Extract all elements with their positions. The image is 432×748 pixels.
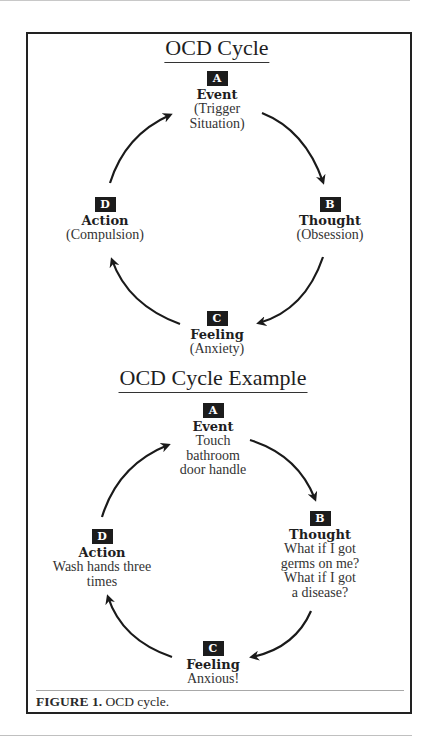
node-desc-line: germs on me?: [245, 557, 395, 572]
node-desc-line: What if I got: [245, 542, 395, 557]
node-c-feeling: C Feeling (Anxiety): [142, 308, 292, 357]
badge-a: A: [203, 403, 224, 418]
node-a-event-example: A Event Touch bathroom door handle: [138, 400, 288, 478]
badge-b: B: [310, 511, 331, 526]
node-desc-line: (Compulsion): [30, 228, 180, 243]
node-label: Action: [27, 545, 177, 560]
badge-d: D: [95, 197, 116, 212]
node-label: Feeling: [138, 657, 288, 672]
caption-divider: [36, 690, 404, 691]
node-label: Thought: [255, 213, 405, 228]
node-label: Action: [30, 213, 180, 228]
node-desc-line: What if I got: [245, 571, 395, 586]
node-desc-line: a disease?: [245, 586, 395, 601]
node-b-thought-example: B Thought What if I got germs on me? Wha…: [245, 508, 395, 600]
node-label: Feeling: [142, 327, 292, 342]
badge-c: C: [207, 311, 228, 326]
node-desc-line: Anxious!: [138, 672, 288, 687]
badge-a: A: [207, 71, 228, 86]
badge-b: B: [320, 197, 341, 212]
badge-c: C: [203, 641, 224, 656]
node-d-action: D Action (Compulsion): [30, 194, 180, 243]
node-label: Thought: [245, 527, 395, 542]
node-desc-line: (Obsession): [255, 228, 405, 243]
node-c-feeling-example: C Feeling Anxious!: [138, 638, 288, 687]
node-label: Event: [138, 419, 288, 434]
node-desc-line: door handle: [138, 463, 288, 478]
page-bottom-rule: [0, 735, 412, 736]
badge-d: D: [92, 529, 113, 544]
diagram-title-ocd-cycle: OCD Cycle: [164, 36, 269, 63]
node-desc-line: times: [27, 575, 177, 590]
figure-caption: FIGURE 1. OCD cycle.: [36, 694, 169, 710]
node-desc-line: Touch: [138, 434, 288, 449]
node-desc-line: Wash hands three: [27, 560, 177, 575]
node-b-thought: B Thought (Obsession): [255, 194, 405, 243]
node-d-action-example: D Action Wash hands three times: [27, 526, 177, 589]
node-desc-line: (Anxiety): [142, 342, 292, 357]
node-label: Event: [142, 87, 292, 102]
node-desc-line: bathroom: [138, 449, 288, 464]
node-desc-line: (Trigger: [142, 102, 292, 117]
node-a-event: A Event (Trigger Situation): [142, 68, 292, 131]
node-desc-line: Situation): [142, 117, 292, 132]
caption-label: FIGURE 1.: [36, 694, 102, 709]
diagram-title-ocd-cycle-example: OCD Cycle Example: [119, 366, 308, 393]
page-top-rule: [0, 0, 410, 1]
caption-text: OCD cycle.: [102, 694, 169, 709]
